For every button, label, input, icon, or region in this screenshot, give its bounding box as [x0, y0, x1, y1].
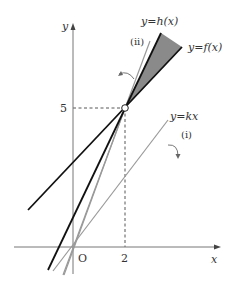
x-axis-label: x [211, 253, 218, 266]
y-axis-arrow-icon [71, 23, 76, 30]
label-f: y=f(x) [187, 41, 222, 54]
label-i: (i) [181, 129, 192, 140]
point-2-5 [122, 105, 129, 112]
rotation-arrow-ii-head [118, 71, 123, 76]
label-kx: y=kx [169, 110, 199, 123]
label-h: y=h(x) [140, 15, 178, 28]
y-tick-5: 5 [60, 102, 67, 115]
x-axis-arrow-icon [214, 245, 221, 250]
function-diagram: y x O 2 5 y=h(x) y=f(x) (ii) y=kx (i) [0, 0, 243, 286]
y-axis-label: y [61, 20, 69, 33]
line-f [28, 47, 182, 210]
origin-label: O [78, 252, 87, 265]
label-ii: (ii) [130, 36, 144, 47]
line-kx [53, 120, 168, 271]
rotation-arrow-i-head [176, 154, 181, 159]
x-tick-2: 2 [121, 252, 128, 265]
